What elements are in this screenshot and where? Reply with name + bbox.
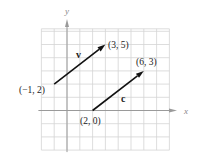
- vector-v-label: v: [76, 49, 81, 60]
- vector-diagram: x y v (−1, 2) (3, 5) c (2, 0) (6, 3): [0, 0, 200, 160]
- y-axis-label: y: [64, 6, 69, 16]
- vector-v-start-label: (−1, 2): [19, 85, 45, 96]
- x-axis-arrow-icon: [169, 109, 177, 113]
- grid: [41, 29, 169, 150]
- y-axis-arrow-icon: [65, 19, 69, 27]
- vector-v: v (−1, 2) (3, 5): [19, 40, 129, 96]
- vector-c-start-label: (2, 0): [80, 116, 101, 127]
- x-axis-label: x: [183, 106, 188, 116]
- vector-c-label: c: [121, 93, 126, 104]
- vector-c-end-label: (6, 3): [136, 57, 157, 68]
- vector-v-end-label: (3, 5): [108, 40, 129, 51]
